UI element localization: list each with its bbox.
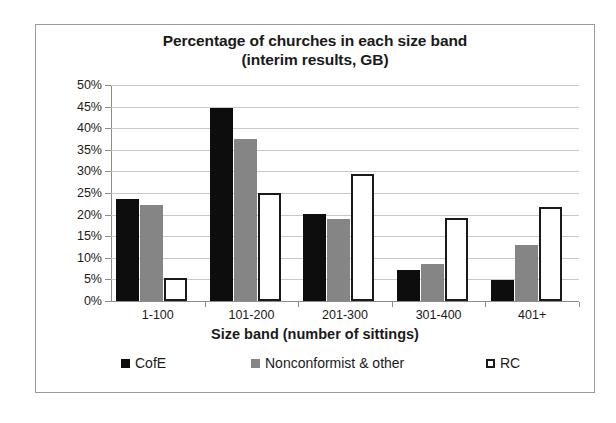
bar[interactable] (515, 245, 538, 301)
bar[interactable] (539, 207, 562, 301)
bar[interactable] (164, 278, 187, 301)
x-axis-category-label: 1-100 (111, 308, 205, 322)
y-axis-tick-label: 0% (50, 295, 102, 307)
legend-item[interactable]: CofE (121, 355, 166, 371)
x-axis-tick-mark (485, 302, 486, 307)
bar-group (205, 85, 299, 301)
bar[interactable] (210, 108, 233, 301)
x-axis-tick-mark (205, 302, 206, 307)
chart-title-line-2: (interim results, GB) (36, 50, 594, 69)
bar-group (392, 85, 486, 301)
bar[interactable] (397, 270, 420, 301)
y-axis-tick-label: 45% (50, 101, 102, 113)
x-axis-tick-mark (298, 302, 299, 307)
bar[interactable] (491, 280, 514, 301)
legend-label: RC (500, 355, 520, 371)
bar[interactable] (351, 174, 374, 301)
chart-title: Percentage of churches in each size band… (36, 31, 594, 69)
y-axis-tick-label: 15% (50, 230, 102, 242)
gridline (111, 301, 579, 302)
legend-label: Nonconformist & other (265, 355, 404, 371)
x-axis-tick-mark (579, 302, 580, 307)
y-axis-tick-label: 25% (50, 187, 102, 199)
bar[interactable] (303, 214, 326, 301)
legend-swatch-icon (486, 359, 495, 368)
chart-legend: CofENonconformist & otherRC (36, 355, 594, 379)
y-axis-tick-label: 5% (50, 273, 102, 285)
bar-group (298, 85, 392, 301)
bar[interactable] (421, 264, 444, 301)
legend-item[interactable]: RC (486, 355, 520, 371)
legend-swatch-icon (121, 359, 130, 368)
x-axis-category-label: 301-400 (392, 308, 486, 322)
y-axis-tick-label: 50% (50, 79, 102, 91)
y-axis-tick-label: 35% (50, 144, 102, 156)
y-axis-tick-label: 20% (50, 209, 102, 221)
y-axis-tick-label: 10% (50, 252, 102, 264)
bar-group (111, 85, 205, 301)
legend-item[interactable]: Nonconformist & other (251, 355, 404, 371)
bar[interactable] (258, 193, 281, 301)
legend-label: CofE (135, 355, 166, 371)
x-axis-tick-mark (392, 302, 393, 307)
bar[interactable] (140, 205, 163, 301)
x-axis-category-label: 401+ (485, 308, 579, 322)
x-axis-category-label: 201-300 (298, 308, 392, 322)
plot-area (111, 85, 579, 301)
bar[interactable] (445, 218, 468, 301)
chart-frame: Percentage of churches in each size band… (35, 24, 595, 393)
y-axis-tick-label: 30% (50, 165, 102, 177)
bar[interactable] (327, 219, 350, 301)
x-axis-category-label: 101-200 (205, 308, 299, 322)
legend-swatch-icon (251, 359, 260, 368)
bar[interactable] (116, 199, 139, 301)
bar-group (485, 85, 579, 301)
x-axis-title: Size band (number of sittings) (36, 326, 594, 342)
chart-title-line-1: Percentage of churches in each size band (163, 32, 467, 49)
y-axis-tick-label: 40% (50, 122, 102, 134)
bar[interactable] (234, 139, 257, 301)
